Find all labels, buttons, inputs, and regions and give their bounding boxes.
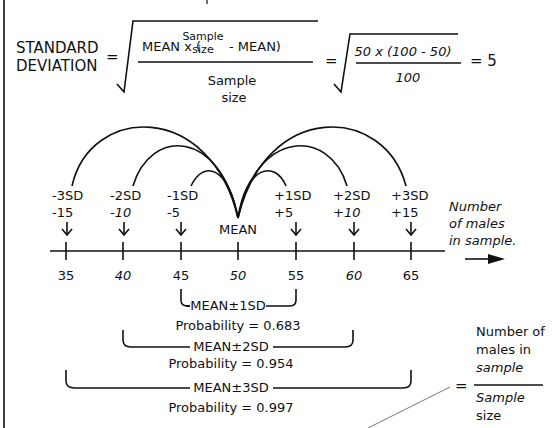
down-arrow-icon [62, 222, 72, 235]
range-1sd-label: MEAN±1SD [190, 298, 265, 313]
down-arrow-icon [176, 222, 186, 235]
proportion-denominator-line1: Sample [476, 390, 525, 405]
numerator-right: - MEAN) [229, 39, 281, 54]
right-arrow-icon [465, 254, 505, 264]
marker-sd-label: +3SD [391, 188, 428, 203]
arc-minus-2sd [133, 146, 238, 218]
tick-label: 45 [173, 268, 190, 283]
pointer-line [368, 387, 450, 428]
range-1sd-probability: Probability = 0.683 [175, 318, 300, 333]
down-arrow-icon [291, 222, 301, 235]
tick-label: 65 [403, 268, 420, 283]
marker-offset-label: -15 [52, 205, 73, 220]
proportion-denominator-line2: size [476, 408, 501, 423]
marker-sd-label: +2SD [333, 188, 370, 203]
numerator-inner-bottom: size [192, 43, 214, 56]
range-3sd-label: MEAN±3SD [193, 380, 268, 395]
proportion-numerator-line1: Number of [476, 324, 545, 339]
marker-offset-label: +15 [391, 205, 418, 220]
range-2sd-label: MEAN±2SD [193, 339, 268, 354]
numerator-inner-top: Sample [182, 30, 223, 43]
example-numerator: 50 x (100 - 50) [355, 44, 452, 59]
formula: STANDARD DEVIATION = MEAN x ( Sample siz… [16, 21, 497, 105]
down-arrow-icon [119, 222, 129, 235]
formula-equals: = [106, 48, 119, 66]
denominator-top: Sample [208, 73, 257, 88]
example-denominator: 100 [396, 70, 421, 85]
tick-label: 55 [288, 268, 305, 283]
tick-label: 35 [58, 268, 75, 283]
range-3sd-probability: Probability = 0.997 [168, 400, 293, 415]
tick-label: 40 [115, 268, 132, 283]
arc-minus-3sd [72, 127, 238, 218]
number-line-axis [50, 242, 445, 260]
marker-offset-label: +10 [333, 205, 360, 220]
proportion-equals: = [455, 377, 468, 395]
down-arrow-icon [406, 222, 416, 235]
mean-label: MEAN [219, 222, 257, 237]
formula-lhs-line1: STANDARD [16, 39, 99, 57]
marker-offset-label: +5 [274, 205, 293, 220]
marker-sd-label: -1SD [167, 188, 198, 203]
proportion-numerator-line2: males in [476, 342, 531, 357]
axis-title-line1: Number [449, 199, 503, 214]
proportion-formula: = Number of males in sample Sample size [368, 324, 545, 428]
marker-sd-label: -2SD [110, 188, 141, 203]
formula-lhs-line2: DEVIATION [16, 57, 97, 75]
down-arrow-icon [349, 222, 359, 235]
formula-equals-2: = [325, 52, 338, 70]
axis-title-line2: of males [449, 216, 505, 231]
arc-plus-3sd [238, 127, 406, 218]
tick-label: 50 [230, 268, 247, 283]
proportion-numerator-line3: sample [476, 360, 523, 375]
marker-sd-label: -3SD [52, 188, 83, 203]
tick-label: 60 [346, 268, 363, 283]
formula-result: = 5 [470, 52, 497, 70]
axis-title-line3: in sample. [449, 233, 516, 248]
marker-offset-label: -10 [110, 205, 131, 220]
range-2sd-probability: Probability = 0.954 [168, 356, 293, 371]
axis-title: Number of males in sample. [449, 199, 516, 264]
standard-deviation-diagram: STANDARD DEVIATION = MEAN x ( Sample siz… [0, 0, 556, 428]
range-labels: MEAN±1SD Probability = 0.683 MEAN±2SD Pr… [168, 298, 300, 415]
denominator-bottom: size [221, 90, 246, 105]
marker-offset-label: -5 [167, 205, 180, 220]
marker-sd-label: +1SD [274, 188, 311, 203]
axis-tick-labels: 35 40 45 50 55 60 65 [58, 268, 420, 283]
